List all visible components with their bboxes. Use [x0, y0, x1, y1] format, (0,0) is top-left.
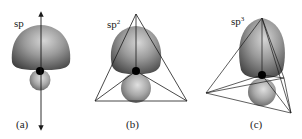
- superscript: 3: [241, 15, 245, 23]
- hybridization-label: sp3: [231, 15, 245, 27]
- panel-caption: (b): [126, 118, 139, 131]
- panel-sp2: sp2 (b): [95, 14, 187, 131]
- panel-sp: sp (a): [12, 14, 71, 131]
- nucleus: [258, 71, 266, 79]
- nucleus: [132, 67, 140, 75]
- panel-caption: (a): [16, 118, 29, 131]
- superscript: 2: [117, 18, 121, 26]
- panel-sp3: sp3 (c): [206, 15, 291, 131]
- panel-caption: (c): [250, 118, 263, 131]
- hybridization-label: sp2: [107, 18, 121, 30]
- nucleus: [36, 67, 44, 75]
- hybridization-label: sp: [14, 17, 24, 29]
- hybrid-orbitals-figure: sp (a) sp2 (b) s: [0, 0, 302, 139]
